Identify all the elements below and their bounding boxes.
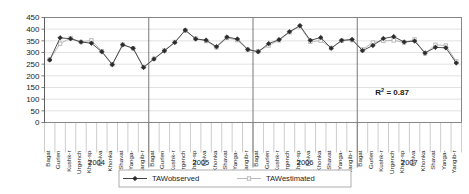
data-point-marker — [247, 177, 250, 180]
x-axis-tick-label: Khonka — [419, 150, 426, 172]
x-axis-tick-label: Bagat — [252, 150, 259, 166]
year-group-label: 2007 — [401, 158, 418, 167]
x-axis-tick-label: Yanga- — [440, 151, 447, 171]
y-axis-tick-label: 300 — [26, 48, 40, 57]
y-axis-tick-label: 250 — [26, 60, 40, 69]
x-axis-tick-label: Urgench — [388, 150, 395, 174]
y-axis-tick-label: 150 — [26, 83, 40, 92]
line-chart: 050100150200250300350400450 BagatGurlenK… — [0, 0, 469, 194]
x-axis-tick-label: Yanga- — [231, 151, 238, 171]
y-axis-tick-label: 400 — [26, 25, 40, 34]
x-axis-tick-label: Kushk-r — [273, 151, 280, 172]
r-squared-annotation: R2 = 0.87 — [375, 87, 409, 97]
data-point-marker — [58, 36, 63, 41]
x-axis-tick-label: Kushk-r — [377, 151, 384, 172]
year-group-label: 2006 — [297, 158, 314, 167]
x-axis-tick-label: Khonka — [106, 150, 113, 172]
x-axis-tick-label: Bagat — [148, 150, 155, 166]
chart-legend: TAWobservedTAWestimated — [119, 170, 351, 187]
x-axis-tick-label: Shavat — [429, 150, 436, 170]
x-axis-tick-label: Gurlen — [367, 150, 374, 169]
x-axis-tick-label: Shavat — [325, 150, 332, 170]
y-axis-tick-label: 50 — [31, 107, 40, 116]
year-group-label: 2004 — [88, 158, 105, 167]
data-point-marker — [58, 42, 61, 45]
x-axis-tick-label: Gurlen — [158, 150, 165, 169]
y-axis-tick-label: 450 — [26, 13, 40, 22]
x-axis-tick-label: Yanga- — [336, 151, 343, 171]
x-axis-tick-label: Shavat — [221, 150, 228, 170]
x-axis-tick-label: Khonka — [211, 150, 218, 172]
x-axis-tick-label: Kushk-r — [169, 151, 176, 172]
x-axis-tick-label: Shavat — [117, 150, 124, 170]
x-axis-tick-label: Khonka — [315, 150, 322, 172]
legend-label: TAWobserved — [152, 174, 199, 183]
y-axis-tick-label: 0 — [35, 118, 40, 127]
chart-container: 050100150200250300350400450 BagatGurlenK… — [0, 0, 469, 194]
x-axis-tick-label: Yanga- — [127, 151, 134, 171]
legend-label: TAWestimated — [266, 174, 315, 183]
year-group-label: 2005 — [193, 158, 210, 167]
x-axis-tick-label: Kushk-r — [65, 151, 72, 172]
x-axis-tick-label: Gurlen — [263, 150, 270, 169]
y-axis-tick-label: 200 — [26, 72, 40, 81]
x-axis-tick-label: Yangib-r — [450, 151, 457, 174]
x-axis-tick-label: Urgench — [75, 150, 82, 174]
y-axis-tick-label: 100 — [26, 95, 40, 104]
r-squared-text: R2 = 0.87 — [375, 87, 409, 97]
x-axis-tick-label: Bagat — [356, 150, 363, 166]
x-axis-tick-label: Bagat — [44, 150, 51, 166]
y-axis-ticks: 050100150200250300350400450 — [26, 13, 44, 127]
x-axis-tick-label: Gurlen — [54, 150, 61, 169]
y-axis-tick-label: 350 — [26, 37, 40, 46]
